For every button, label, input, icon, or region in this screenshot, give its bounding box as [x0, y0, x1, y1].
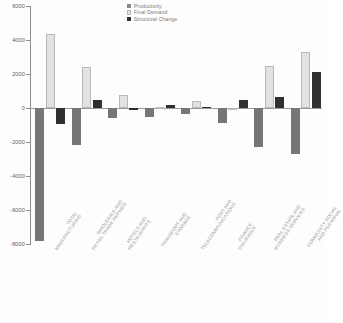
bar-final-demand — [192, 101, 201, 108]
y-tick-label: 2000 — [12, 71, 25, 77]
bar-productivity — [72, 108, 81, 145]
y-tick-label: 6000 — [12, 3, 25, 9]
y-tick-label: 4000 — [12, 37, 25, 43]
x-axis-category-labels: TOTALMANUFACTURINGWHOLESALE ANDRETAIL TR… — [30, 245, 322, 323]
plot-area: 6000400020000-2000-4000-6000-8000 — [30, 6, 322, 244]
bar-productivity — [108, 108, 117, 118]
y-tick-mark — [26, 40, 31, 41]
bar-final-demand — [301, 52, 310, 108]
y-tick-label: 0 — [22, 105, 25, 111]
bar-structural-change — [129, 108, 138, 110]
y-tick-mark — [26, 210, 31, 211]
bar-structural-change — [166, 105, 175, 108]
y-tick-mark — [26, 176, 31, 177]
bar-final-demand — [265, 66, 274, 109]
bar-final-demand — [82, 67, 91, 108]
y-tick-mark — [26, 142, 31, 143]
bar-productivity — [218, 108, 227, 123]
y-tick-label: -4000 — [10, 173, 25, 179]
y-tick-label: -6000 — [10, 207, 25, 213]
bar-structural-change — [275, 97, 284, 108]
bar-productivity — [181, 108, 190, 114]
bar-final-demand — [46, 34, 55, 108]
bar-structural-change — [312, 72, 321, 108]
bar-productivity — [35, 108, 44, 241]
bar-productivity — [291, 108, 300, 154]
bar-final-demand — [119, 95, 128, 108]
y-tick-label: -2000 — [10, 139, 25, 145]
y-tick-mark — [26, 6, 31, 7]
bar-structural-change — [202, 107, 211, 108]
bar-final-demand — [228, 108, 237, 110]
bar-structural-change — [239, 100, 248, 109]
bar-productivity — [145, 108, 154, 117]
bar-final-demand — [155, 107, 164, 109]
y-axis-line — [30, 6, 31, 244]
y-tick-label: -8000 — [10, 241, 25, 247]
bar-structural-change — [93, 100, 102, 109]
bar-productivity — [254, 108, 263, 147]
bar-structural-change — [56, 108, 65, 124]
y-tick-mark — [26, 74, 31, 75]
